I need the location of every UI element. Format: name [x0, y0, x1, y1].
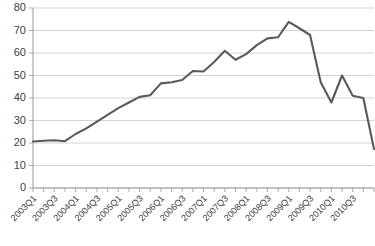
y-axis-tick-label: 40: [14, 91, 26, 103]
y-axis-tick-label: 80: [14, 1, 26, 13]
y-axis-tick-label: 30: [14, 114, 26, 126]
y-axis-tick-label: 50: [14, 69, 26, 81]
chart-canvas: 010203040506070802003Q12003Q32004Q12004Q…: [0, 0, 375, 246]
y-axis-tick-label: 0: [20, 181, 26, 193]
series-line-1: [33, 22, 374, 149]
y-axis-tick-label: 70: [14, 24, 26, 36]
y-axis-tick-label: 20: [14, 136, 26, 148]
line-chart: 010203040506070802003Q12003Q32004Q12004Q…: [0, 0, 375, 246]
y-axis-tick-label: 10: [14, 159, 26, 171]
y-axis-tick-label: 60: [14, 46, 26, 58]
